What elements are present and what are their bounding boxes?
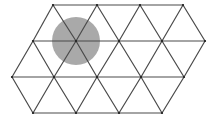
lattice-edge xyxy=(183,5,205,41)
lattice-edge xyxy=(12,41,33,77)
lattice-edge xyxy=(119,41,141,77)
lattice-edge xyxy=(97,77,119,113)
lattice-vertex xyxy=(139,4,141,6)
lattice-edge xyxy=(12,77,33,113)
lattice-edge xyxy=(97,5,119,41)
lattice-vertex xyxy=(161,112,163,114)
lattice-vertex xyxy=(204,40,206,42)
lattice-edge xyxy=(184,41,205,77)
lattice-edge xyxy=(162,5,183,41)
lattice-vertex xyxy=(161,40,163,42)
lattice-vertex xyxy=(182,4,184,6)
lattice-vertex xyxy=(75,40,77,42)
lattice-vertex xyxy=(32,40,34,42)
lattice-edge xyxy=(33,5,53,41)
lattice-svg xyxy=(0,0,217,125)
lattice-edge xyxy=(54,77,76,113)
lattice-edge xyxy=(162,77,184,113)
lattice-edge xyxy=(33,41,54,77)
lattice-vertex xyxy=(96,76,98,78)
lattice-edges xyxy=(12,5,205,113)
triangular-lattice-diagram xyxy=(0,0,217,125)
lattice-edge xyxy=(119,5,140,41)
lattice-edge xyxy=(97,41,119,77)
lattice-edge xyxy=(162,41,184,77)
lattice-edge xyxy=(140,5,162,41)
lattice-vertex xyxy=(32,112,34,114)
lattice-edge xyxy=(33,77,54,113)
lattice-vertex xyxy=(118,112,120,114)
lattice-vertex xyxy=(140,76,142,78)
lattice-vertex xyxy=(11,76,13,78)
lattice-vertex xyxy=(53,76,55,78)
lattice-edge xyxy=(76,77,97,113)
lattice-edge xyxy=(141,77,162,113)
lattice-vertex xyxy=(183,76,185,78)
lattice-vertex xyxy=(118,40,120,42)
lattice-edge xyxy=(141,41,162,77)
lattice-vertex xyxy=(75,112,77,114)
lattice-vertex xyxy=(96,4,98,6)
lattice-edge xyxy=(119,77,141,113)
lattice-vertex xyxy=(52,4,54,6)
